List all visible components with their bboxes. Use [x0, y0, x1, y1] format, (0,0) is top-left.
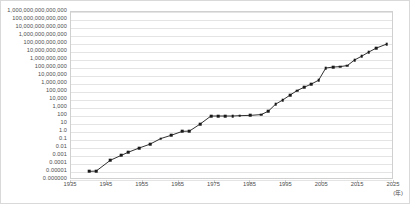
data-point-marker — [231, 115, 234, 118]
data-point-marker — [238, 114, 241, 117]
x-axis-tick-label: 1985 — [243, 182, 256, 188]
data-point-marker — [159, 137, 162, 140]
data-point-marker — [217, 115, 220, 118]
data-point-marker — [281, 99, 284, 102]
y-axis-tick-label: 10,000,000 — [38, 72, 67, 78]
data-point-marker — [303, 86, 306, 89]
data-point-marker — [120, 154, 123, 157]
data-point-marker — [95, 170, 98, 173]
x-axis-tick-label: 1955 — [135, 182, 148, 188]
y-axis-tick-label: 1,000 — [53, 104, 68, 110]
x-axis-tick-label: 1935 — [64, 182, 77, 188]
data-point-marker — [353, 59, 356, 62]
y-axis-tick-label: 0.0001 — [49, 160, 67, 166]
y-axis-tick-label: 1,000,000,000 — [30, 56, 67, 62]
data-point-marker — [188, 130, 191, 133]
data-point-marker — [317, 79, 320, 82]
data-point-marker — [386, 43, 389, 46]
y-axis-tick-label: 0.001 — [53, 152, 68, 158]
data-point-marker — [267, 110, 270, 113]
cropped-title-fragment — [7, 0, 187, 4]
data-point-marker — [249, 114, 252, 117]
y-axis-tick-label: 100,000,000,000 — [24, 40, 68, 46]
data-point-marker — [289, 94, 292, 97]
data-point-marker — [332, 66, 335, 69]
y-axis-tick-label: 100,000 — [46, 88, 67, 94]
data-point-marker — [360, 55, 363, 58]
x-axis-tick-label: 1975 — [207, 182, 220, 188]
x-axis-title: (年) — [393, 191, 403, 197]
x-axis-tick-label: 1945 — [99, 182, 112, 188]
y-axis-tick-label: 1,000,000 — [41, 80, 67, 86]
data-point-marker — [88, 170, 91, 173]
x-axis-tick-label: 1965 — [171, 182, 184, 188]
data-point-marker — [149, 143, 152, 146]
data-point-marker — [127, 151, 130, 154]
data-point-marker — [368, 51, 371, 54]
data-point-marker — [310, 83, 313, 86]
x-axis-tick-label: 1995 — [279, 182, 292, 188]
data-point-marker — [339, 65, 342, 68]
data-point-marker — [170, 134, 173, 137]
data-point-marker — [325, 67, 328, 70]
plot-area — [70, 11, 393, 179]
chart-figure: 1,000,000,000,000,000100,000,000,000,000… — [0, 0, 410, 204]
data-point-marker — [260, 113, 263, 116]
y-axis-tick-label: 0.00001 — [46, 168, 67, 174]
y-axis-tick-label: 100,000,000,000,000 — [12, 16, 67, 22]
x-axis-tick-label: 2015 — [351, 182, 364, 188]
data-point-marker — [224, 115, 227, 118]
x-axis-tick-label: 2005 — [315, 182, 328, 188]
data-point-marker — [210, 115, 213, 118]
x-axis-tick-label: 2025 — [387, 182, 400, 188]
data-point-marker — [296, 89, 299, 92]
y-axis-tick-label: 0.01 — [56, 144, 67, 150]
data-point-marker — [181, 130, 184, 133]
data-point-marker — [375, 47, 378, 50]
x-axis-tick-labels: 1935194519551965197519851995200520152025 — [70, 180, 393, 192]
y-axis-tick-labels: 1,000,000,000,000,000100,000,000,000,000… — [1, 11, 67, 179]
data-point-marker — [138, 147, 141, 150]
data-point-marker — [109, 159, 112, 162]
y-axis-tick-label: 1,000,000,000,000 — [19, 32, 67, 38]
y-axis-tick-label: 100 — [57, 112, 67, 118]
y-axis-tick-label: 100,000,000 — [35, 64, 67, 70]
data-series-line — [71, 12, 392, 178]
y-axis-tick-label: 1,000,000,000,000,000 — [7, 8, 67, 14]
y-axis-tick-label: 10 — [61, 120, 67, 126]
y-axis-tick-label: 10,000,000,000,000 — [15, 24, 67, 30]
data-point-marker — [199, 123, 202, 126]
y-axis-tick-label: 1.0 — [59, 128, 67, 134]
y-axis-tick-label: 10,000 — [49, 96, 67, 102]
y-axis-tick-label: 10,000,000,000 — [27, 48, 67, 54]
y-axis-tick-label: 0.1 — [59, 136, 67, 142]
data-point-marker — [346, 64, 349, 67]
data-point-marker — [274, 103, 277, 106]
